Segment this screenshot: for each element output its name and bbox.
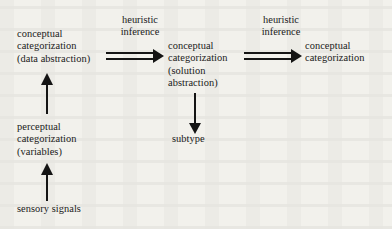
- edge-arrow-solution-to-subtype: [189, 93, 201, 134]
- node-line: conceptual: [305, 40, 365, 52]
- arrow-line-lower: [106, 58, 155, 59]
- node-line: categorization: [17, 133, 77, 145]
- node-line: (variables): [17, 146, 77, 158]
- node-line: (solution: [168, 65, 228, 77]
- edge-arrow-solution-to-final: [244, 49, 302, 63]
- arrow-line: [194, 93, 196, 125]
- arrow-line: [46, 83, 48, 114]
- node-line: categorization: [17, 40, 90, 52]
- node-line: abstraction): [168, 77, 228, 89]
- node-line: perceptual: [17, 121, 77, 133]
- node-line: categorization: [168, 52, 228, 64]
- arrowhead-right-icon: [153, 49, 164, 63]
- arrow-line-upper: [244, 52, 293, 53]
- node-perceptual-categorization: perceptual categorization (variables): [17, 121, 77, 158]
- edge-label-line: inference: [106, 26, 174, 38]
- edge-arrow-data-to-solution: [106, 49, 164, 63]
- node-line: conceptual: [17, 28, 90, 40]
- node-line: sensory signals: [17, 203, 81, 215]
- arrow-line-lower: [244, 58, 293, 59]
- edge-arrow-perceptual-to-data: [41, 73, 53, 114]
- node-conceptual-categorization-solution: conceptual categorization (solution abst…: [168, 40, 228, 90]
- node-conceptual-categorization-data: conceptual categorization (data abstract…: [17, 28, 90, 65]
- flow-diagram-canvas: conceptual categorization (data abstract…: [0, 0, 392, 229]
- edge-label-line: inference: [247, 26, 315, 38]
- edge-arrow-sensory-to-perceptual: [41, 163, 53, 201]
- node-subtype: subtype: [172, 133, 205, 145]
- edge-label-line: heuristic: [106, 14, 174, 26]
- node-conceptual-categorization-final: conceptual categorization: [305, 40, 365, 65]
- node-line: conceptual: [168, 40, 228, 52]
- node-line: subtype: [172, 133, 205, 145]
- arrow-line: [46, 173, 48, 201]
- node-line: categorization: [305, 52, 365, 64]
- edge-label-heuristic-inference-1: heuristic inference: [106, 14, 174, 39]
- node-line: (data abstraction): [17, 53, 90, 65]
- arrow-line-upper: [106, 52, 155, 53]
- node-sensory-signals: sensory signals: [17, 203, 81, 215]
- edge-label-heuristic-inference-2: heuristic inference: [247, 14, 315, 39]
- edge-label-line: heuristic: [247, 14, 315, 26]
- arrowhead-right-icon: [291, 49, 302, 63]
